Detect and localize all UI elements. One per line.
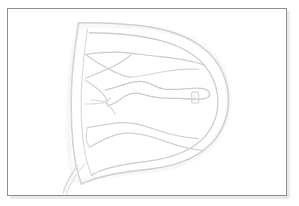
mid-tongue-outline: [105, 81, 209, 106]
upper-branch-inner: [131, 69, 199, 77]
upper-branch-top: [85, 52, 204, 65]
small-rounded-rectangle-marker: [192, 92, 199, 103]
lower-sweep-left-cap: [86, 128, 89, 148]
upper-branch-lower-diag: [85, 55, 131, 79]
screenshot-root: [0, 0, 299, 206]
marker-rect: [192, 92, 199, 103]
upper-branch-diag: [85, 55, 131, 78]
plate-frame: [7, 8, 287, 196]
left-spine-inner: [81, 29, 91, 175]
lower-sweep-upper: [87, 123, 198, 139]
inner-d-contour-group: [81, 29, 218, 175]
lower-sweep-contour-group: [86, 123, 202, 151]
figure-line-drawing: [8, 9, 286, 195]
mid-tongue-stem: [91, 100, 115, 115]
upper-branch-contour-group: [85, 52, 204, 78]
lower-sweep-lower: [89, 133, 202, 150]
